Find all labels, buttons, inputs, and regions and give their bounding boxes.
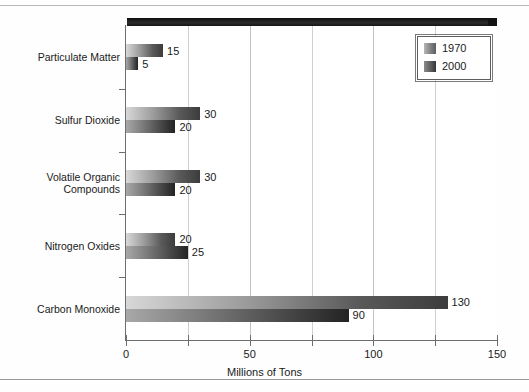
bar-2000-0 (126, 57, 138, 70)
y-tick-3 (119, 214, 126, 215)
bar-value-1970-0: 15 (167, 45, 179, 57)
category-label-1: Sulfur Dioxide (0, 114, 120, 126)
x-tick-100 (373, 335, 374, 346)
bar-1970-1 (126, 107, 200, 120)
bar-value-2000-4: 90 (353, 309, 365, 321)
x-tick-label-0: 0 (123, 348, 129, 360)
legend-label-1970: 1970 (442, 43, 466, 54)
bar-value-1970-4: 130 (452, 296, 470, 308)
y-tick-2 (119, 152, 126, 153)
bar-value-1970-3: 20 (179, 233, 191, 245)
bar-2000-4 (126, 309, 349, 322)
bar-2000-2 (126, 183, 175, 196)
bar-2000-1 (126, 120, 175, 133)
bar-2000-3 (126, 246, 188, 259)
bar-value-1970-1: 30 (204, 108, 216, 120)
x-tick-125 (435, 335, 436, 346)
gridline-50 (250, 26, 251, 340)
x-axis-title: Millions of Tons (0, 366, 529, 378)
legend-label-2000: 2000 (442, 61, 466, 72)
x-tick-label-100: 100 (364, 348, 382, 360)
category-label-2: Volatile Organic Compounds (0, 171, 120, 195)
bar-chart: 050100150 Millions of Tons Particulate M… (0, 0, 529, 392)
bar-value-2000-0: 5 (142, 58, 148, 70)
gridline-75 (312, 26, 313, 340)
y-tick-1 (119, 89, 126, 90)
bar-value-1970-2: 30 (204, 171, 216, 183)
x-tick-0 (126, 335, 127, 346)
bar-value-2000-1: 20 (179, 121, 191, 133)
legend-entry-1970[interactable]: 1970 (424, 41, 466, 55)
y-tick-4 (119, 277, 126, 278)
legend[interactable]: 1970 2000 (417, 36, 491, 80)
bar-1970-2 (126, 170, 200, 183)
category-label-4: Carbon Monoxide (0, 303, 120, 315)
x-tick-75 (312, 335, 313, 346)
x-tick-label-150: 150 (488, 348, 506, 360)
category-label-3: Nitrogen Oxides (0, 240, 120, 252)
bar-1970-3 (126, 233, 175, 246)
legend-entry-2000[interactable]: 2000 (424, 59, 466, 73)
x-tick-150 (497, 335, 498, 346)
gridline-100 (373, 26, 374, 340)
chart-figure: 050100150 Millions of Tons Particulate M… (0, 0, 529, 392)
bar-1970-4 (126, 296, 448, 309)
category-label-0: Particulate Matter (0, 51, 120, 63)
bar-1970-0 (126, 44, 163, 57)
plot-frame-top-shadow (127, 18, 496, 26)
legend-swatch-2000-icon (424, 61, 436, 72)
legend-swatch-1970-icon (424, 43, 436, 54)
x-tick-label-50: 50 (244, 348, 256, 360)
x-tick-25 (188, 335, 189, 346)
bar-value-2000-2: 20 (179, 184, 191, 196)
x-tick-50 (250, 335, 251, 346)
bar-value-2000-3: 25 (192, 246, 204, 258)
